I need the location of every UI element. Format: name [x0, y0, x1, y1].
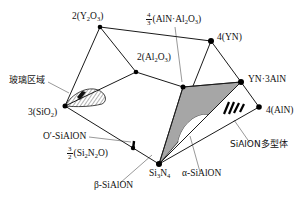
label-text: Si [149, 168, 157, 178]
polytype-bars [224, 102, 244, 114]
node-y2o3 [98, 25, 103, 30]
label-si2n2o: 32(Si2N2O) [67, 146, 108, 161]
label-o-prime-sialon: O′-SiAlON [43, 132, 86, 142]
label-si3n4: Si3N4 [149, 169, 170, 180]
node-sio2 [63, 104, 68, 109]
label-text: O [90, 11, 97, 21]
fraction: 43 [146, 12, 152, 27]
node-si2n2o [131, 146, 135, 150]
label-text: ) [100, 11, 103, 21]
node-yn [208, 38, 214, 44]
node-al2o3 [134, 70, 139, 75]
fraction: 32 [67, 146, 73, 161]
label-yn: 4(YN) [217, 33, 242, 43]
node-yn-3aln [238, 79, 244, 85]
label-text: O [158, 52, 165, 62]
label-alpha-sialon: α-SiAlON [182, 169, 221, 179]
label-text: 3(SiO [28, 107, 51, 117]
label-text: O) [98, 148, 108, 158]
node-aln [256, 104, 262, 110]
label-sialon-polytypes: SiAlON多型体 [230, 140, 288, 149]
label-y2o3: 2(Y2O3) [72, 12, 103, 23]
node-aln-al2o3 [181, 85, 186, 90]
label-text: 2(Y [72, 11, 87, 21]
label-text: O [188, 14, 195, 24]
label-al2o3: 2(Al2O3) [137, 53, 171, 64]
label-beta-sialon: β-SiAlON [94, 181, 133, 191]
label-aln: 4(AlN) [266, 106, 293, 116]
node-si3n4 [156, 161, 162, 167]
label-aln-al2o3: 43(AlN·Al2O3) [146, 12, 201, 27]
label-text: N [88, 148, 95, 158]
label-text: ) [168, 52, 171, 62]
label-sio2: 3(SiO2) [28, 108, 57, 119]
label-sub: 4 [167, 172, 170, 179]
label-text: ) [54, 107, 57, 117]
label-text: 2(Al [137, 52, 154, 62]
label-yn-3aln: YN·3AlN [248, 75, 286, 85]
label-text: ) [198, 14, 201, 24]
label-text: (Si [74, 148, 85, 158]
label-text: (AlN·Al [153, 14, 185, 24]
label-glass-region: 玻璃区域 [9, 76, 45, 85]
